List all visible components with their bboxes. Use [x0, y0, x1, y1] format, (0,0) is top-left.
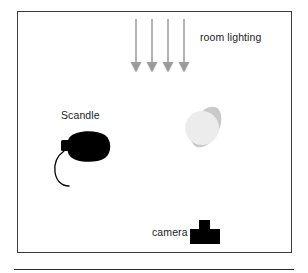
- scene-frame: [17, 11, 292, 253]
- figure-root: room lighting Scandle camera: [0, 0, 308, 273]
- camera-label: camera: [152, 227, 188, 238]
- scandle-label: Scandle: [61, 110, 100, 121]
- scene-inner: [18, 12, 291, 252]
- room-lighting-label: room lighting: [200, 32, 261, 43]
- bottom-divider: [14, 269, 294, 270]
